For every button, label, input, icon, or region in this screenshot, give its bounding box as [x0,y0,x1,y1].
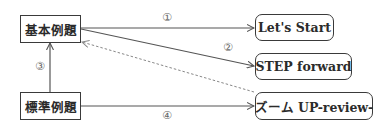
flow-diagram: ① ② ③ ④ 基本例題 標準例題 Let's Start STEP forwa… [0,0,390,126]
node-lets-start: Let's Start [255,14,334,41]
node-hyojun-reidai: 標準例題 [20,92,81,120]
edge-1-label: ① [162,12,172,23]
node-zoom-up-review: ズーム UP-review- [255,92,373,120]
edge-3-label: ③ [35,61,45,72]
node-step-forward: STEP forward [255,53,352,80]
node-kihon-reidai: 基本例題 [20,15,81,43]
edge-4-label: ④ [162,110,172,121]
edge-2-label: ② [223,42,233,53]
